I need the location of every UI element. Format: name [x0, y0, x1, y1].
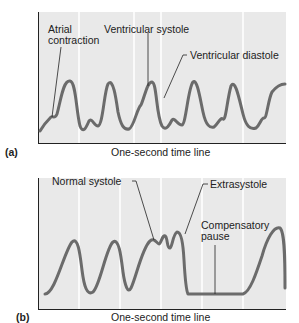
- annotation-normal-systole: Normal systole: [52, 176, 121, 187]
- panel-label-a: (a): [5, 146, 18, 158]
- annotation-ventricular-systole: Ventricular systole: [104, 24, 189, 35]
- axis-title-b: One-second time line: [111, 311, 210, 323]
- annotation-compensatory-pause: Compensatory pause: [201, 220, 269, 242]
- panel-label-b: (b): [16, 311, 29, 323]
- annotation-text: pause: [201, 231, 269, 242]
- panel-a: Atrial contraction Ventricular systole V…: [0, 0, 299, 162]
- annotation-ventricular-diastole: Ventricular diastole: [190, 50, 279, 61]
- axis-title-a: One-second time line: [111, 146, 210, 158]
- annotation-text: contraction: [48, 35, 99, 46]
- panel-b: Normal systole Extrasystole Compensatory…: [0, 162, 299, 323]
- annotation-extrasystole: Extrasystole: [210, 179, 267, 190]
- annotation-atrial-contraction: Atrial contraction: [48, 24, 99, 46]
